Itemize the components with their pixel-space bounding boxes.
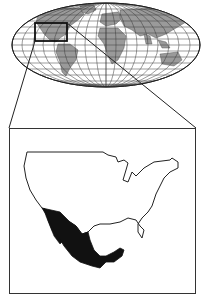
inset-map: [10, 129, 196, 294]
locator-map-figure: [0, 0, 205, 302]
world-globe: [10, 3, 200, 90]
